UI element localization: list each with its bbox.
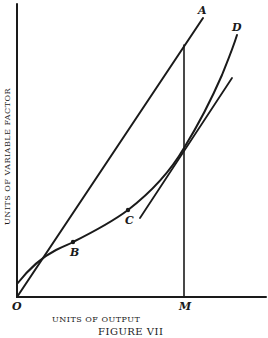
label-M: M xyxy=(178,300,192,313)
label-A: A xyxy=(197,4,207,17)
point-B-dot xyxy=(71,240,75,244)
ray-OA xyxy=(17,18,203,297)
figure-caption: FIGURE VII xyxy=(98,326,163,337)
x-axis-label: UNITS OF OUTPUT xyxy=(52,315,141,324)
label-B: B xyxy=(69,246,79,259)
figure-vii-diagram: A D B C O M UNITS OF OUTPUT UNITS OF VAR… xyxy=(0,0,268,338)
label-D: D xyxy=(231,21,242,34)
tangent-line xyxy=(140,78,232,218)
label-C: C xyxy=(125,214,134,227)
point-C-dot xyxy=(126,208,130,212)
y-axis-label: UNITS OF VARIABLE FACTOR xyxy=(3,87,12,225)
label-O: O xyxy=(12,300,22,313)
